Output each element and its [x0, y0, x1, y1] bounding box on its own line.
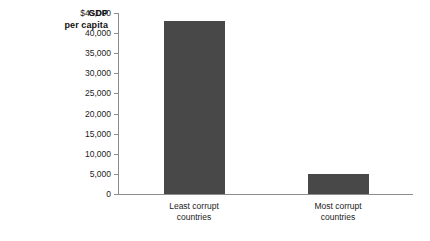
y-axis-tick-mark — [114, 134, 119, 135]
bar — [308, 174, 369, 194]
y-axis-tick-label: $45,000 — [80, 9, 111, 18]
y-axis-tick-label: 15,000 — [85, 129, 111, 138]
gdp-per-capita-bar-chart: GDP per capita 05,00010,00015,00020,0002… — [0, 0, 430, 241]
y-axis-tick-label: 10,000 — [85, 149, 111, 158]
y-axis-tick-mark — [114, 154, 119, 155]
y-axis-tick-label: 20,000 — [85, 109, 111, 118]
x-axis-line — [118, 194, 413, 195]
y-axis-tick-mark — [114, 33, 119, 34]
y-axis-tick-mark — [114, 53, 119, 54]
y-axis-tick-mark — [114, 174, 119, 175]
x-axis-category-label: Most corruptcountries — [278, 201, 398, 223]
y-axis-tick-label: 35,000 — [85, 49, 111, 58]
y-axis-tick-mark — [114, 114, 119, 115]
y-axis-tick-label: 0 — [106, 190, 111, 199]
x-axis-category-label-line: countries — [278, 212, 398, 223]
x-axis-category-label-line: Least corrupt — [134, 201, 254, 212]
y-axis-line — [118, 13, 119, 195]
plot-area: 05,00010,00015,00020,00025,00030,00035,0… — [118, 13, 413, 194]
x-axis-category-label-line: Most corrupt — [278, 201, 398, 212]
y-axis-tick-label: 25,000 — [85, 89, 111, 98]
y-axis-tick-mark — [114, 93, 119, 94]
x-axis-category-label-line: countries — [134, 212, 254, 223]
y-axis-tick-label: 5,000 — [90, 169, 111, 178]
y-axis-tick-label: 40,000 — [85, 29, 111, 38]
y-axis-tick-label: 30,000 — [85, 69, 111, 78]
y-axis-tick-mark — [114, 13, 119, 14]
y-axis-tick-mark — [114, 73, 119, 74]
bar — [164, 21, 225, 194]
y-axis-tick-mark — [114, 194, 119, 195]
x-axis-category-label: Least corruptcountries — [134, 201, 254, 223]
